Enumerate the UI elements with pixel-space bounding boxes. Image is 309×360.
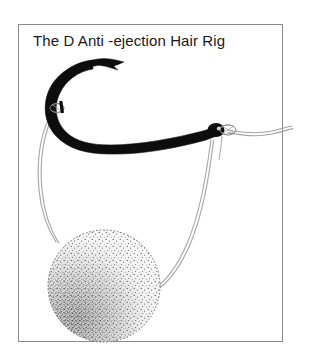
hook	[45, 59, 224, 155]
hook-eye-icon	[208, 123, 225, 137]
figure-page: The D Anti -ejection Hair Rig	[0, 0, 309, 360]
bait	[40, 222, 172, 354]
knot-tag-end	[219, 136, 222, 160]
hook-point-icon	[92, 59, 124, 71]
rig-diagram	[0, 0, 309, 360]
hook-body	[45, 60, 219, 154]
hair-line-right	[157, 140, 214, 288]
hook-length-line	[228, 126, 293, 136]
